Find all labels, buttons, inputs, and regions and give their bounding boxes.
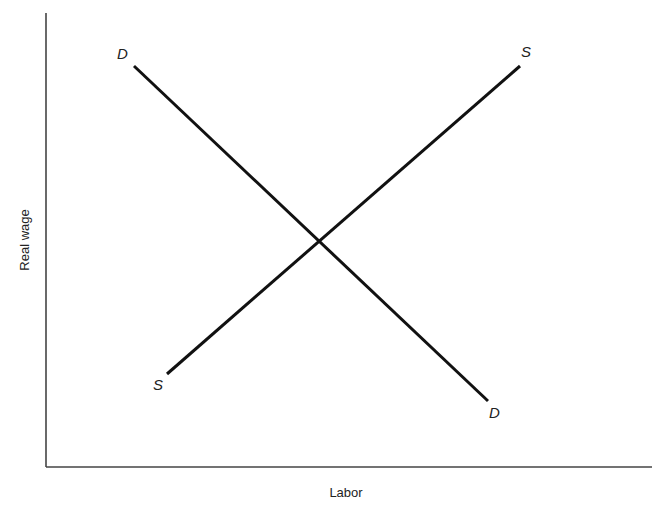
y-axis-label: Real wage [17, 209, 32, 270]
demand-curve [134, 66, 488, 401]
supply-curve [167, 66, 520, 374]
demand-label-bottom: D [489, 404, 500, 421]
x-axis-label: Labor [329, 485, 363, 500]
supply-label-bottom: S [153, 376, 163, 393]
labor-market-diagram: D D S S Labor Real wage [0, 0, 654, 506]
demand-label-top: D [117, 45, 128, 62]
supply-label-top: S [521, 43, 531, 60]
